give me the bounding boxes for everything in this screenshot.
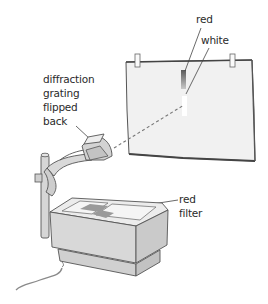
label-diffraction-grating: diffraction grating flipped back bbox=[43, 72, 113, 128]
label-line: grating bbox=[43, 86, 113, 100]
projection-screen bbox=[126, 60, 255, 161]
label-line: filter bbox=[179, 206, 219, 220]
label-line: red bbox=[179, 192, 219, 206]
label-line: flipped bbox=[43, 100, 113, 114]
screen-clip-left bbox=[135, 54, 140, 67]
white-band bbox=[182, 96, 187, 116]
red-band bbox=[181, 70, 186, 89]
projector-body bbox=[50, 198, 168, 276]
label-red-filter: red filter bbox=[179, 192, 219, 220]
label-line: back bbox=[43, 114, 113, 128]
label-red: red bbox=[196, 14, 213, 25]
screen-clip-right bbox=[230, 54, 235, 67]
projector-column bbox=[35, 153, 49, 238]
label-line: diffraction bbox=[43, 72, 113, 86]
power-cord bbox=[16, 268, 62, 290]
label-white: white bbox=[201, 35, 229, 46]
